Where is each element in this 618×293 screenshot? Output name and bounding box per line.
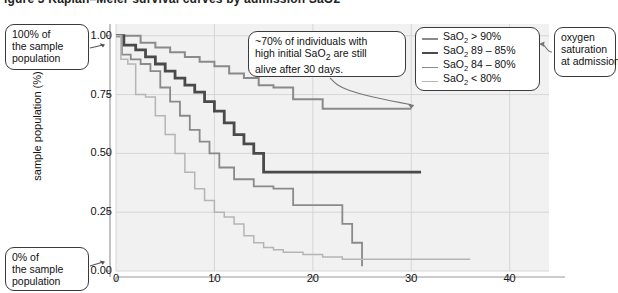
legend-label: SaO2 < 80% [443, 73, 501, 88]
callout-line: at admission [561, 56, 609, 68]
x-tick-label: 40 [495, 272, 525, 284]
legend-swatch-icon [422, 67, 438, 68]
y-axis-label: sample population (%) [31, 51, 43, 201]
x-tick-label: 0 [101, 272, 131, 284]
x-tick-label: 10 [199, 272, 229, 284]
callout-line: the sample [12, 41, 82, 53]
callout-oxygen-saturation: oxygensaturationat admission [554, 27, 616, 77]
callout-line: population [12, 53, 82, 65]
x-axis-ticks: 010203040 [0, 272, 618, 292]
figure-kaplan-meier: igure 3 Kaplan–Meier survival curves by … [0, 0, 618, 293]
legend-item-3[interactable]: SaO2 < 80% [422, 74, 533, 88]
legend-swatch-icon [422, 52, 438, 54]
y-tick-label: 0.25 [78, 205, 112, 217]
x-tick-label: 20 [298, 272, 328, 284]
callout-line: population [12, 276, 82, 288]
callout-0-percent: 0% ofthe samplepopulation [5, 247, 89, 291]
callout-100-percent: 100% ofthe samplepopulation [5, 24, 89, 70]
legend-swatch-icon [422, 38, 438, 40]
callout-line: the sample [12, 264, 82, 276]
callout-line: high initial SaO2 are still [255, 48, 399, 64]
callout-survival-annotation: ~70% of individuals withhigh initial SaO… [248, 31, 406, 77]
x-tick-label: 30 [396, 272, 426, 284]
y-tick-label: 0.50 [78, 146, 112, 158]
chart-legend: SaO2 > 90%SaO2 89 – 85%SaO2 84 – 80%SaO2… [415, 27, 540, 91]
callout-line: alive after 30 days. [255, 64, 399, 76]
callout-line: saturation [561, 44, 609, 56]
y-tick-label: 0.75 [78, 88, 112, 100]
legend-swatch-icon [422, 81, 438, 82]
